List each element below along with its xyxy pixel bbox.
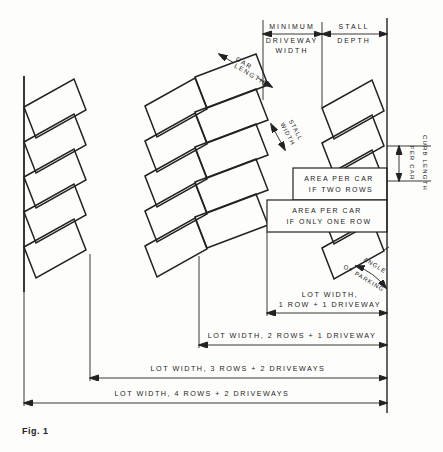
figure-page: MINIMUMDRIVEWAYWIDTHSTALLDEPTHCARLENGTHS… <box>0 0 443 452</box>
parking-stalls-layer <box>24 54 384 279</box>
label-lot4: LOT WIDTH, 4 ROWS + 2 DRIVEWAYS <box>115 389 290 398</box>
dim-car-length-a <box>219 54 234 63</box>
row-1-curbside-left-stall-2 <box>24 114 86 173</box>
row-3-middle-right-stall-3 <box>195 124 268 178</box>
area-per-car-two-rows-box <box>293 168 387 200</box>
label-area_per_car: AREA PER CAR <box>304 175 374 182</box>
label-one_row_one_driveway: 1 ROW + 1 DRIVEWAY <box>279 300 381 309</box>
row-3-middle-right-stall-2 <box>195 89 268 143</box>
label-area_per_car: AREA PER CAR <box>292 207 362 214</box>
label-driveway: DRIVEWAY <box>266 37 319 44</box>
row-2-middle-left-stall-5 <box>145 218 207 277</box>
label-minimum: MINIMUM <box>269 23 315 30</box>
row-1-curbside-left-stall-3 <box>24 149 86 208</box>
row-2-middle-left-stall-1 <box>145 78 207 137</box>
label-lot3: LOT WIDTH, 3 ROWS + 2 DRIVEWAYS <box>151 364 326 373</box>
row-2-middle-left-stall-4 <box>145 183 207 242</box>
row-2-middle-left-stall-3 <box>145 148 207 207</box>
area-per-car-one-row-box <box>267 200 387 232</box>
row-1-curbside-left-stall-1 <box>24 79 86 138</box>
label-if_only_one_row: IF ONLY ONE ROW <box>286 218 371 225</box>
label-if_two_rows: IF TWO ROWS <box>309 186 374 193</box>
row-2-middle-left-stall-2 <box>145 113 207 172</box>
row-4-curbside-right-stall-2 <box>322 115 384 174</box>
row-1-curbside-left-stall-5 <box>24 219 86 278</box>
row-3-middle-right-stall-5 <box>195 194 268 248</box>
row-3-middle-right-stall-4 <box>195 159 268 213</box>
row-4-curbside-right-stall-1 <box>322 80 384 139</box>
parking-layout-diagram: MINIMUMDRIVEWAYWIDTHSTALLDEPTHCARLENGTHS… <box>0 0 443 452</box>
label-lot_width_comma: LOT WIDTH, <box>302 290 358 299</box>
label-width: WIDTH <box>276 47 309 54</box>
row-1-curbside-left-stall-4 <box>24 184 86 243</box>
label-lot2: LOT WIDTH, 2 ROWS + 1 DRIVEWAY <box>208 331 376 340</box>
label-angle: ANGLE <box>363 256 388 274</box>
label-fig: Fig. 1 <box>22 426 49 436</box>
label-curb_length: CURB LENGTH <box>422 135 428 191</box>
label-per_car: PER CAR <box>409 145 415 180</box>
label-stall: STALL <box>339 23 370 30</box>
label-depth: DEPTH <box>337 37 371 44</box>
